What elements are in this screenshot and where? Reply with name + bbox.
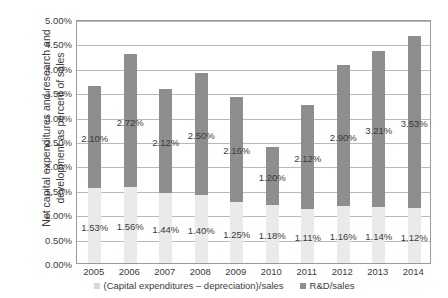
legend-swatch-icon (94, 283, 100, 289)
bar-group[interactable] (301, 19, 314, 263)
x-axis-tick-label: 2011 (297, 266, 317, 277)
y-axis-tick-label: 4.00% (26, 63, 72, 74)
x-axis-tick-label: 2013 (367, 266, 388, 277)
x-axis-tick-label: 2006 (119, 266, 140, 277)
x-axis-tick-label: 2010 (261, 266, 282, 277)
bar-group[interactable] (408, 19, 421, 263)
data-label-rnd: 2.50% (188, 130, 215, 141)
legend-label: (Capital expenditures – depreciation)/sa… (104, 280, 284, 291)
y-axis-tick-label: 4.50% (26, 39, 72, 50)
bar-group[interactable] (230, 19, 243, 263)
x-axis-tick-label: 2005 (83, 266, 104, 277)
y-axis-tick-labels: 0.00%0.50%1.00%1.50%2.00%2.50%3.00%3.50%… (26, 0, 72, 298)
x-axis-tick-label: 2008 (190, 266, 211, 277)
data-label-capex: 1.56% (117, 221, 144, 232)
chart-container: Net capital expenditures and research an… (0, 0, 448, 298)
y-axis-tick-label: 5.00% (26, 15, 72, 26)
bar-group[interactable] (372, 19, 385, 263)
data-label-capex: 1.16% (330, 231, 357, 242)
data-label-rnd: 2.10% (81, 133, 108, 144)
data-label-capex: 1.18% (259, 230, 286, 241)
data-label-rnd: 2.90% (330, 132, 357, 143)
plot-area: 1.53%2.10%1.56%2.72%1.44%2.12%1.40%2.50%… (76, 20, 431, 264)
data-label-capex: 1.14% (365, 231, 392, 242)
y-axis-tick-label: 2.00% (26, 161, 72, 172)
data-label-rnd: 3.21% (365, 125, 392, 136)
x-axis-tick-labels: 2005200620072008200920102011201220132014 (76, 266, 431, 280)
legend-item[interactable]: (Capital expenditures – depreciation)/sa… (94, 280, 284, 291)
data-label-capex: 1.12% (401, 232, 428, 243)
data-label-rnd: 1.20% (259, 172, 286, 183)
y-axis-tick-label: 0.50% (26, 234, 72, 245)
data-label-rnd: 2.16% (223, 145, 250, 156)
y-axis-tick-label: 1.00% (26, 210, 72, 221)
data-label-rnd: 2.12% (152, 137, 179, 148)
x-axis-tick-label: 2014 (403, 266, 424, 277)
legend-item[interactable]: R&D/sales (300, 280, 355, 291)
y-axis-tick-label: 2.50% (26, 137, 72, 148)
data-label-capex: 1.11% (295, 232, 321, 243)
data-label-rnd: 2.12% (294, 153, 321, 164)
y-axis-tick-label: 3.00% (26, 112, 72, 123)
chart-legend: (Capital expenditures – depreciation)/sa… (0, 280, 448, 291)
bars-layer: 1.53%2.10%1.56%2.72%1.44%2.12%1.40%2.50%… (77, 21, 430, 263)
data-label-capex: 1.40% (188, 225, 215, 236)
legend-swatch-icon (300, 283, 306, 289)
y-axis-tick-label: 1.50% (26, 185, 72, 196)
y-axis-tick-label: 3.50% (26, 88, 72, 99)
data-label-capex: 1.44% (152, 224, 179, 235)
x-axis-tick-label: 2012 (332, 266, 353, 277)
x-axis-tick-label: 2009 (225, 266, 246, 277)
data-label-rnd: 2.72% (117, 117, 144, 128)
legend-label: R&D/sales (310, 280, 355, 291)
x-axis-tick-label: 2007 (154, 266, 175, 277)
data-label-capex: 1.25% (223, 229, 250, 240)
bar-group[interactable] (266, 19, 279, 263)
data-label-capex: 1.53% (81, 222, 108, 233)
y-axis-tick-label: 0.00% (26, 259, 72, 270)
data-label-rnd: 3.53% (401, 118, 428, 129)
